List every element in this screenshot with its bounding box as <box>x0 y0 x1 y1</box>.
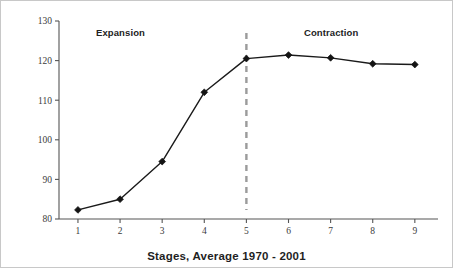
data-point-marker <box>285 52 292 59</box>
x-tick-label: 1 <box>76 226 81 236</box>
y-tick-label: 80 <box>43 214 53 224</box>
annotation-expansion: Expansion <box>96 27 145 38</box>
x-tick-label: 9 <box>412 226 417 236</box>
x-tick-label: 7 <box>328 226 333 236</box>
x-tick-label: 5 <box>244 226 249 236</box>
data-point-marker <box>411 61 418 68</box>
x-tick-label: 6 <box>286 226 291 236</box>
data-point-marker <box>75 206 82 213</box>
x-tick-label: 8 <box>370 226 375 236</box>
y-tick-label: 100 <box>38 135 53 145</box>
cycle-relatives-chart: 8090100110120130 123456789 Expansion Con… <box>0 0 453 268</box>
data-point-marker <box>369 60 376 67</box>
plot-area: 8090100110120130 123456789 <box>1 1 453 268</box>
x-axis-title: Stages, Average 1970 - 2001 <box>1 250 452 262</box>
y-tick-label: 90 <box>43 175 53 185</box>
data-point-marker <box>327 54 334 61</box>
x-tick-label: 2 <box>118 226 123 236</box>
y-tick-label: 130 <box>38 16 53 26</box>
y-tick-label: 120 <box>38 56 53 66</box>
x-tick-label: 3 <box>160 226 165 236</box>
x-tick-label: 4 <box>202 226 207 236</box>
annotation-contraction: Contraction <box>304 27 358 38</box>
y-axis-ticks: 8090100110120130 <box>38 16 59 224</box>
y-tick-label: 110 <box>38 96 52 106</box>
x-axis-ticks: 123456789 <box>76 219 418 236</box>
